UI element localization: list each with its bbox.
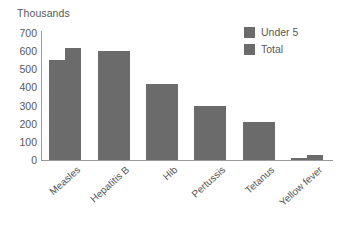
legend-item: Total: [244, 42, 298, 57]
x-axis-tick-label: Hib: [161, 164, 180, 182]
chart-legend: Under 5Total: [244, 25, 298, 59]
x-axis-tick-label: Pertussis: [190, 164, 228, 200]
legend-swatch-icon: [244, 27, 255, 38]
x-axis-tick-label: Tetanus: [242, 164, 275, 196]
x-axis-tick-label: Measles: [48, 164, 83, 197]
legend-swatch-icon: [244, 44, 255, 55]
x-axis-tick-label: Hepatitis B: [88, 164, 131, 205]
x-axis-tick-label: Yellow fever: [277, 164, 324, 208]
legend-label: Under 5: [261, 27, 298, 38]
legend-label: Total: [261, 44, 283, 55]
bar-chart: Thousands 0100200300400500600700 Measles…: [0, 0, 346, 226]
legend-item: Under 5: [244, 25, 298, 40]
